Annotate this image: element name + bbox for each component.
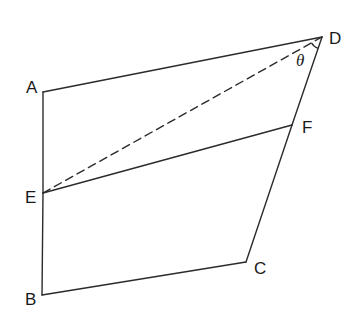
edge-E-B	[42, 193, 43, 295]
vertex-label-C: C	[254, 259, 266, 278]
edge-A-D	[43, 37, 322, 92]
edge-C-F	[246, 125, 292, 262]
dashed-diagonal-E-D	[43, 37, 322, 193]
edge-B-C	[42, 262, 246, 295]
vertex-label-F: F	[302, 118, 312, 137]
vertex-label-B: B	[25, 290, 36, 309]
geometry-diagram: θ A B C D E F	[0, 0, 362, 315]
vertex-label-A: A	[26, 78, 38, 97]
edge-E-F	[43, 125, 292, 193]
angle-label-theta: θ	[296, 51, 304, 70]
vertex-label-D: D	[329, 29, 341, 48]
angle-arc-theta	[312, 43, 319, 49]
vertex-label-E: E	[25, 188, 36, 207]
